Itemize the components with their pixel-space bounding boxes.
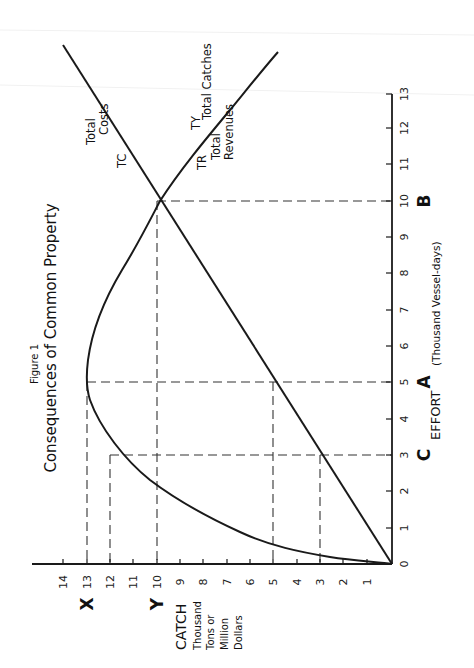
marker-c: C <box>414 449 434 461</box>
tc-costs-label: Costs <box>97 103 111 135</box>
svg-text:Dollars: Dollars <box>233 615 244 650</box>
svg-text:6: 6 <box>398 343 411 350</box>
reference-lines <box>87 201 392 564</box>
svg-text:0: 0 <box>398 561 411 568</box>
svg-text:11: 11 <box>398 157 411 171</box>
svg-text:6: 6 <box>244 579 257 586</box>
figure-heading: Consequences of Common Property <box>42 203 60 472</box>
svg-text:13: 13 <box>81 575 94 589</box>
marker-b: B <box>414 195 434 208</box>
svg-text:1: 1 <box>361 579 374 586</box>
svg-text:1: 1 <box>398 525 411 532</box>
svg-text:3: 3 <box>398 452 411 459</box>
svg-text:9: 9 <box>398 234 411 241</box>
svg-text:4: 4 <box>291 579 304 586</box>
catch-axis-title: CATCH Thousand Tons or Million Dollars <box>173 601 244 651</box>
svg-text:11: 11 <box>127 575 140 589</box>
curve-labels: Total Costs TC TY Total Catches TR Total… <box>84 43 236 171</box>
svg-text:9: 9 <box>174 579 187 586</box>
effort-axis-title: EFFORT (Thousand Vessel-days) <box>428 241 443 440</box>
effort-tick-labels: 0 1 2 3 4 5 6 7 8 9 10 11 12 13 <box>398 87 411 568</box>
tr-name-label: TR <box>195 155 209 171</box>
tr-total-label: Total <box>209 133 223 161</box>
ty-text-label: Total Catches <box>200 43 214 121</box>
svg-text:5: 5 <box>267 579 280 586</box>
svg-text:8: 8 <box>398 270 411 277</box>
svg-text:10: 10 <box>151 575 164 589</box>
svg-text:13: 13 <box>398 87 411 101</box>
svg-text:5: 5 <box>398 379 411 386</box>
svg-text:8: 8 <box>197 579 210 586</box>
marker-a: A <box>414 375 434 389</box>
svg-text:2: 2 <box>337 579 350 586</box>
catch-tick-labels: 1 2 3 4 5 6 7 8 9 10 11 12 13 14 <box>57 575 374 589</box>
scan-artifact <box>0 30 474 35</box>
svg-text:14: 14 <box>57 575 70 589</box>
svg-text:12: 12 <box>104 575 117 589</box>
axes <box>32 94 392 564</box>
tr-revenues-label: Revenues <box>222 104 236 160</box>
svg-text:4: 4 <box>398 416 411 423</box>
svg-text:2: 2 <box>398 488 411 495</box>
svg-text:Thousand: Thousand <box>192 601 203 651</box>
svg-text:7: 7 <box>221 579 234 586</box>
tc-total-label: Total <box>84 118 98 146</box>
svg-text:Tons or: Tons or <box>205 614 216 651</box>
svg-text:7: 7 <box>398 307 411 314</box>
svg-text:10: 10 <box>398 194 411 208</box>
ty-tr-curve <box>87 52 392 564</box>
figure-label: Figure 1 <box>29 344 40 384</box>
chart-figure: 1 2 3 4 5 6 7 8 9 10 11 12 13 14 0 1 2 3… <box>0 0 474 668</box>
svg-text:Million: Million <box>219 618 230 650</box>
svg-text:12: 12 <box>398 121 411 135</box>
svg-text:3: 3 <box>314 579 327 586</box>
svg-text:(Thousand Vessel-days): (Thousand Vessel-days) <box>430 241 442 366</box>
figure-title: Figure 1 Consequences of Common Property <box>29 203 60 472</box>
marker-x: X <box>77 597 97 610</box>
marker-y: Y <box>147 597 167 611</box>
svg-text:CATCH: CATCH <box>173 604 189 650</box>
tc-name-label: TC <box>115 154 129 169</box>
svg-text:EFFORT: EFFORT <box>428 391 443 440</box>
